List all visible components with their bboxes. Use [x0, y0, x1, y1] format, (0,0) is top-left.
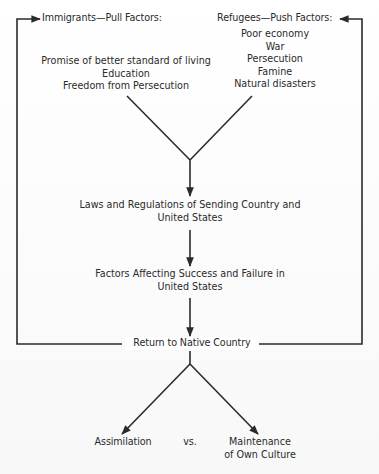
- laws-line-2: United States: [40, 212, 340, 225]
- laws-line-1: Laws and Regulations of Sending Country …: [40, 199, 340, 212]
- factors-line-2: United States: [40, 281, 340, 294]
- push-factor-item: War: [215, 41, 335, 54]
- pull-factors-list: Promise of better standard of living Edu…: [26, 55, 226, 93]
- pull-factor-item: Freedom from Persecution: [26, 80, 226, 93]
- return-native-country-node: Return to Native Country: [125, 337, 259, 350]
- push-factor-item: Famine: [215, 66, 335, 79]
- laws-regulations-node: Laws and Regulations of Sending Country …: [40, 199, 340, 224]
- push-factor-item: Natural disasters: [215, 78, 335, 91]
- pull-factor-item: Promise of better standard of living: [26, 55, 226, 68]
- pull-converge-line: [127, 96, 190, 160]
- push-factor-item: Persecution: [215, 53, 335, 66]
- maintenance-line-2: of Own Culture: [220, 449, 300, 462]
- to-maintenance-arrow: [190, 364, 258, 434]
- versus-label: vs.: [176, 436, 204, 449]
- pull-factors-header: Immigrants—Pull Factors:: [42, 12, 162, 25]
- assimilation-outcome: Assimilation: [88, 436, 158, 449]
- push-factor-item: Poor economy: [215, 28, 335, 41]
- maintenance-line-1: Maintenance: [220, 436, 300, 449]
- success-failure-node: Factors Affecting Success and Failure in…: [40, 268, 340, 293]
- push-factors-header: Refugees—Push Factors:: [217, 12, 332, 25]
- maintenance-outcome: Maintenance of Own Culture: [220, 436, 300, 461]
- factors-line-1: Factors Affecting Success and Failure in: [40, 268, 340, 281]
- pull-factor-item: Education: [26, 68, 226, 81]
- to-assimilation-arrow: [122, 364, 190, 434]
- push-factors-list: Poor economy War Persecution Famine Natu…: [215, 28, 335, 91]
- push-converge-line: [190, 96, 252, 160]
